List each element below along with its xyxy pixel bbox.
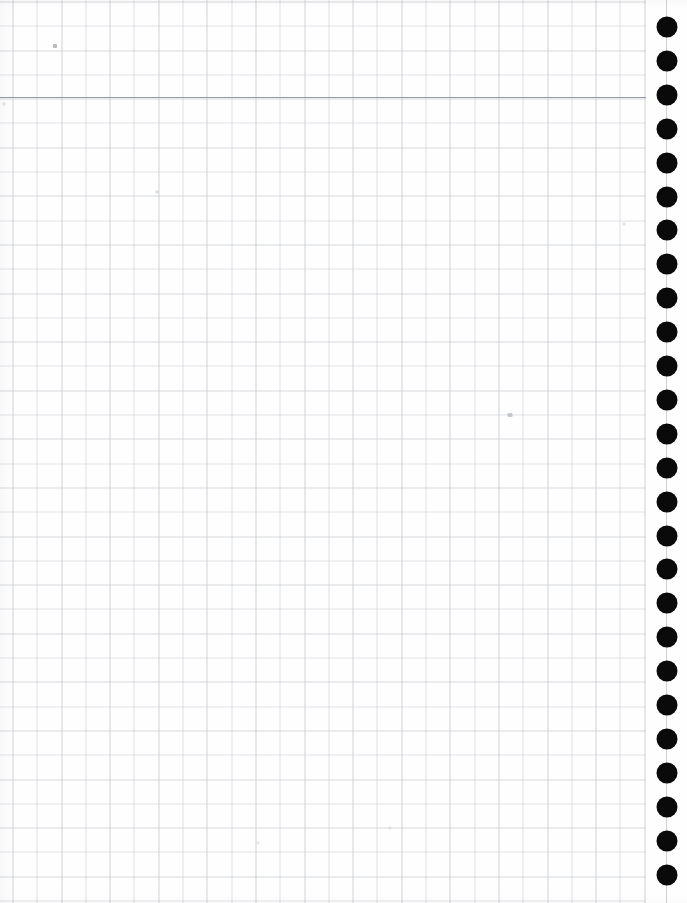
binding-hole	[657, 118, 678, 139]
binding-hole	[657, 152, 678, 173]
binding-hole	[657, 186, 678, 207]
binding-hole	[657, 695, 678, 716]
binding-hole	[657, 50, 678, 71]
scan-speck	[508, 413, 513, 417]
scan-speck	[257, 842, 260, 845]
binding-hole	[657, 356, 678, 377]
scan-speck	[623, 223, 626, 226]
binding-hole	[657, 728, 678, 749]
binding-hole-strip	[646, 0, 687, 903]
binding-hole	[657, 491, 678, 512]
header-rule-line	[0, 97, 646, 98]
binding-hole	[657, 389, 678, 410]
scan-speck	[3, 103, 6, 106]
binding-hole	[657, 220, 678, 241]
binding-hole	[657, 627, 678, 648]
binding-hole	[657, 830, 678, 851]
binding-hole	[657, 762, 678, 783]
binding-hole	[657, 796, 678, 817]
binding-hole	[657, 322, 678, 343]
binding-hole	[657, 661, 678, 682]
scan-speck	[389, 827, 392, 830]
binding-hole	[657, 559, 678, 580]
grid-major-lines	[0, 0, 646, 903]
binding-hole	[657, 525, 678, 546]
scanned-graph-paper-page	[0, 0, 687, 903]
binding-hole	[657, 254, 678, 275]
scan-speck	[53, 44, 57, 48]
binding-hole	[657, 593, 678, 614]
binding-hole	[657, 423, 678, 444]
binding-hole	[657, 864, 678, 885]
binding-hole	[657, 457, 678, 478]
scan-speck	[156, 191, 159, 194]
binding-hole	[657, 288, 678, 309]
binding-hole	[657, 17, 678, 38]
binding-hole	[657, 84, 678, 105]
